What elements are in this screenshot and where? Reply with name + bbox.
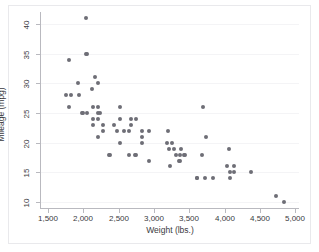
x-axis-tick	[119, 209, 120, 213]
y-axis-tick-label: 20	[22, 143, 34, 144]
data-point	[172, 147, 176, 151]
data-point	[140, 129, 144, 133]
plot-region	[41, 12, 299, 208]
data-point	[166, 129, 170, 133]
x-axis-tick-label: 4,500	[250, 214, 270, 223]
y-axis-line	[40, 12, 41, 209]
data-point	[80, 111, 84, 115]
x-axis-tick	[225, 209, 226, 213]
data-point	[112, 123, 116, 127]
x-axis-tick-label: 2,000	[73, 214, 93, 223]
data-point	[227, 147, 231, 151]
y-axis-tick-label: 35	[22, 54, 34, 55]
y-axis-tick-label-text: 20	[22, 139, 31, 148]
x-axis-tick	[83, 209, 84, 213]
data-point	[200, 153, 204, 157]
y-axis-tick	[36, 172, 40, 173]
y-axis-tick-label: 15	[22, 172, 34, 173]
data-point	[84, 52, 88, 56]
data-point	[127, 129, 131, 133]
data-point	[165, 141, 169, 145]
data-point	[201, 105, 205, 109]
data-point	[67, 58, 71, 62]
y-axis-tick-label-text: 25	[22, 109, 31, 118]
y-axis-tick-label-text: 35	[22, 50, 31, 59]
y-axis-tick-label: 40	[22, 24, 34, 25]
x-axis-title: Weight (lbs.)	[146, 226, 194, 235]
x-axis-tick	[189, 209, 190, 213]
x-axis-tick	[48, 209, 49, 213]
y-axis-tick-label-text: 40	[22, 20, 31, 29]
y-gridline	[41, 24, 299, 25]
y-axis-tick	[36, 54, 40, 55]
x-axis-tick-label: 3,000	[144, 214, 164, 223]
data-point	[96, 135, 100, 139]
y-gridline	[41, 202, 299, 203]
x-axis-tick-label: 3,500	[179, 214, 199, 223]
data-point	[129, 123, 133, 127]
data-point	[96, 117, 100, 121]
data-point	[96, 105, 100, 109]
data-point	[140, 135, 144, 139]
y-gridline	[41, 172, 299, 173]
data-point	[115, 129, 119, 133]
y-axis-tick	[36, 113, 40, 114]
y-axis-title: Mileage (mpg)	[0, 87, 6, 141]
y-axis-tick-label: 10	[22, 202, 34, 203]
data-point	[85, 111, 89, 115]
x-axis-tick-label: 5,000	[285, 214, 305, 223]
data-point	[129, 117, 133, 121]
x-axis-tick-label: 4,000	[215, 214, 235, 223]
data-point	[274, 194, 278, 198]
x-axis-tick	[154, 209, 155, 213]
y-axis-tick	[36, 202, 40, 203]
data-point	[101, 123, 105, 127]
y-axis-tick-label: 30	[22, 83, 34, 84]
y-axis-tick-label-text: 30	[22, 79, 31, 88]
y-axis-tick	[36, 83, 40, 84]
scatter-plot-figure: 10152025303540 1,5002,0002,5003,0003,500…	[0, 0, 319, 252]
data-point	[91, 105, 95, 109]
data-point	[178, 159, 182, 163]
x-axis-tick-label: 1,500	[38, 214, 58, 223]
data-point	[179, 147, 183, 151]
data-point	[101, 129, 105, 133]
x-axis-tick-label: 2,500	[109, 214, 129, 223]
data-point	[178, 153, 182, 157]
data-point	[182, 153, 186, 157]
y-axis-tick	[36, 24, 40, 25]
data-point	[96, 81, 100, 85]
data-point	[140, 141, 144, 145]
data-point	[134, 153, 138, 157]
data-point	[127, 153, 131, 157]
x-axis-tick	[260, 209, 261, 213]
data-point	[91, 117, 95, 121]
data-point	[147, 129, 151, 133]
data-point	[147, 159, 151, 163]
data-point	[77, 93, 81, 97]
y-axis-tick	[36, 143, 40, 144]
data-point	[195, 176, 199, 180]
data-point	[170, 141, 174, 145]
data-point	[84, 16, 88, 20]
y-axis-tick-label-text: 10	[22, 198, 31, 207]
x-axis-tick	[295, 209, 296, 213]
data-point	[108, 153, 112, 157]
data-point	[118, 141, 122, 145]
y-axis-tick-label: 25	[22, 113, 34, 114]
data-point	[167, 147, 171, 151]
data-point	[91, 123, 95, 127]
y-gridline	[41, 54, 299, 55]
y-axis-tick-label-text: 15	[22, 168, 31, 177]
